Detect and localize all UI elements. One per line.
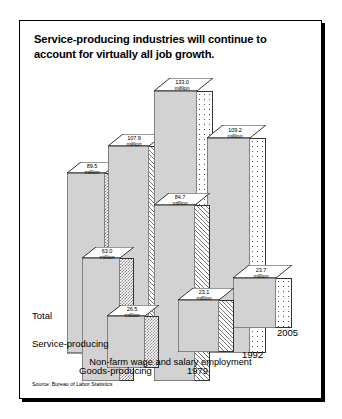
value-label-goods-1992: 23.1million — [183, 290, 225, 301]
axis-label-2005: 2005 — [277, 327, 298, 338]
chart-figure: Service-producing industries will contin… — [19, 20, 322, 399]
value-label-total-2005: 133.0million — [160, 80, 204, 91]
axis-label-total: Total — [32, 310, 52, 321]
bar-goods-2005 — [233, 278, 292, 328]
chart-source: Source: Bureau of Labor Statistics — [32, 381, 112, 387]
chart-subtitle: Non-farm wage and salary employment — [20, 357, 321, 367]
value-label-goods-1979: 26.5million — [112, 307, 152, 318]
bar-goods-1992 — [178, 300, 234, 352]
value-label-total-1992: 107.9million — [113, 136, 155, 147]
value-label-service-1979: 63.0million — [87, 249, 127, 260]
value-label-total-1979: 89.5million — [72, 164, 112, 175]
chart-title: Service-producing industries will contin… — [34, 32, 302, 61]
value-label-goods-2005: 23.7million — [239, 268, 283, 279]
axis-label-service-producing: Service-producing — [32, 338, 109, 349]
value-label-service-1992: 84.7million — [159, 195, 201, 206]
value-label-service-2005: 109.2million — [213, 128, 257, 139]
chart-plot-area: 89.5million 107.9million 133.0million — [20, 65, 321, 350]
